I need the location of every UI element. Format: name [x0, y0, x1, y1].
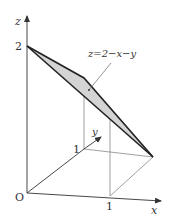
diagram-canvas: z 2 z=2−x−y 1 y O 1 x	[0, 0, 179, 224]
z-axis-label: z	[14, 15, 21, 28]
x-tick-1: 1	[106, 200, 113, 213]
origin-label: O	[15, 191, 24, 204]
equation-label: z=2−x−y	[87, 48, 136, 59]
x-axis	[27, 193, 161, 201]
z-tick-2: 2	[15, 40, 22, 53]
plane-diagram: z 2 z=2−x−y 1 y O 1 x	[0, 0, 179, 224]
y-tick-1: 1	[73, 143, 80, 156]
equation-leader-line	[89, 63, 111, 90]
leader-dot	[88, 89, 90, 91]
x-axis-label: x	[151, 204, 158, 217]
axes	[27, 16, 161, 201]
y-axis	[84, 137, 101, 149]
y-axis-label: y	[91, 126, 98, 137]
plane-triangle	[27, 46, 153, 157]
